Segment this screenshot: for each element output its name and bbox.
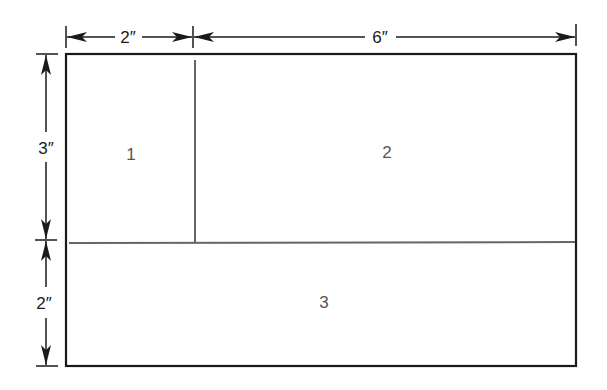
horizontal-divider (69, 242, 575, 243)
region-1-label: 1 (126, 145, 135, 164)
dim-label-top-2in: 2″ (120, 28, 135, 47)
layout-rectangle (66, 54, 576, 366)
dim-label-top-6in: 6″ (372, 28, 387, 47)
dimension-diagram: 2″ 6″ 3″ 2″ 1 2 3 (0, 0, 607, 390)
region-2-label: 2 (382, 143, 391, 162)
dim-label-left-3in: 3″ (38, 139, 53, 158)
dim-label-left-2in: 2″ (36, 294, 51, 313)
region-3-label: 3 (319, 293, 328, 312)
outer-border (66, 54, 576, 366)
top-dimension: 2″ 6″ (66, 24, 576, 48)
left-dimension: 3″ 2″ (35, 54, 58, 366)
region-labels: 1 2 3 (126, 143, 391, 312)
